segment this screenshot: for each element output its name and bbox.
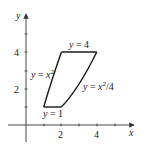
- label-top: y = 4: [68, 39, 89, 50]
- region-boundary: [44, 52, 97, 107]
- x-axis-label: x: [128, 127, 134, 138]
- y-tick-label-4: 4: [14, 47, 19, 58]
- x-tick-label-4: 4: [94, 129, 99, 140]
- label-left: y = x2: [30, 68, 55, 80]
- y-axis-label: y: [15, 10, 21, 21]
- label-bottom: y = 1: [42, 108, 63, 119]
- x-tick-label-2: 2: [58, 129, 63, 140]
- right-curve-x-squared-over-4: [61, 52, 96, 107]
- region-diagram: x y 2 4 2 4 y = 4 y = 1 y = x2 y = x2/4: [0, 0, 145, 151]
- y-tick-label-2: 2: [14, 84, 19, 95]
- label-right: y = x2/4: [82, 80, 114, 92]
